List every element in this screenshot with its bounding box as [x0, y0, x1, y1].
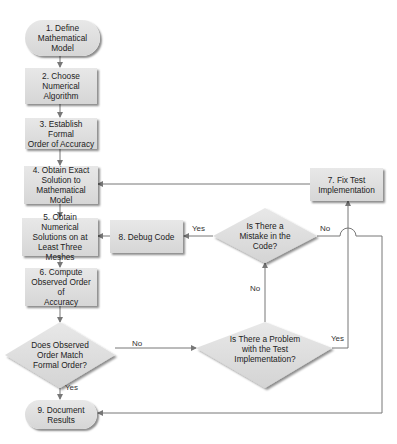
decision-problem-text: Is There a Problem with the Test Impleme…: [212, 330, 318, 368]
step-1-label: 1. Define Mathematical Model: [38, 23, 87, 53]
decision-observed-order-label: Does Observed Order Match Formal Order?: [31, 340, 89, 370]
step-2-choose-algorithm: 2. Choose Numerical Algorithm: [25, 68, 97, 104]
step-5-numerical-solutions: 5. Obtain Numerical Solutions on at Leas…: [22, 218, 98, 256]
label-match-yes: Yes: [65, 383, 78, 392]
decision-problem-label: Is There a Problem with the Test Impleme…: [230, 334, 300, 364]
label-match-no: No: [132, 339, 142, 348]
label-problem-yes: Yes: [331, 334, 344, 343]
step-4-exact-solution: 4. Obtain Exact Solution to Mathematical…: [24, 166, 98, 204]
step-7-fix-test: 7. Fix Test Implementation: [310, 168, 383, 201]
step-8-debug-code: 8. Debug Code: [110, 220, 183, 253]
step-9-document-results: 9. Document Results: [25, 400, 97, 429]
step-3-label: 3. Establish Formal Order of Accuracy: [27, 119, 95, 149]
step-6-label: 6. Compute Observed Order of Accuracy: [27, 267, 95, 307]
label-mistake-no: No: [320, 224, 330, 233]
step-3-formal-order: 3. Establish Formal Order of Accuracy: [25, 118, 97, 149]
step-9-label: 9. Document Results: [37, 405, 84, 425]
step-8-label: 8. Debug Code: [119, 232, 175, 242]
label-problem-no: No: [250, 284, 260, 293]
step-5-label: 5. Obtain Numerical Solutions on at Leas…: [24, 212, 96, 262]
edge-mistake-9: [98, 228, 382, 413]
step-1-define-model: 1. Define Mathematical Model: [25, 20, 100, 56]
decision-observed-order-text: Does Observed Order Match Formal Order?: [15, 336, 105, 374]
label-mistake-yes: Yes: [192, 224, 205, 233]
step-6-observed-order: 6. Compute Observed Order of Accuracy: [25, 268, 97, 306]
decision-mistake-label: Is There a Mistake in the Code?: [239, 221, 290, 251]
decision-mistake-text: Is There a Mistake in the Code?: [225, 218, 305, 254]
step-4-label: 4. Obtain Exact Solution to Mathematical…: [26, 165, 96, 205]
step-2-label: 2. Choose Numerical Algorithm: [42, 71, 80, 101]
edge-problem-7: [332, 201, 348, 348]
step-7-label: 7. Fix Test Implementation: [318, 175, 375, 195]
